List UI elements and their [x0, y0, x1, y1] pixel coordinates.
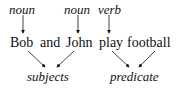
arrow-football-to-predicate — [139, 51, 155, 67]
arrow-bob-to-subjects — [28, 51, 45, 67]
arrows-layer — [0, 0, 177, 89]
arrow-john-to-subjects — [57, 51, 74, 67]
arrow-play-to-predicate — [112, 51, 129, 67]
